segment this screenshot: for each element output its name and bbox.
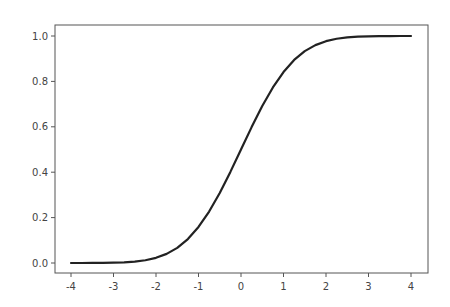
x-tick-label: 2 xyxy=(323,281,329,292)
x-tick-label: 3 xyxy=(365,281,371,292)
x-tick-label: -1 xyxy=(194,281,204,292)
x-tick-label: 4 xyxy=(408,281,414,292)
y-tick-label: 1.0 xyxy=(32,31,48,42)
y-tick-label: 0.4 xyxy=(32,167,48,178)
y-tick-label: 0.0 xyxy=(32,258,48,269)
x-tick-label: 0 xyxy=(238,281,244,292)
y-axis: 0.00.20.40.60.81.0 xyxy=(32,31,55,269)
x-tick-label: -4 xyxy=(66,281,76,292)
y-tick-label: 0.2 xyxy=(32,212,48,223)
line-chart: -4-3-2-101234 0.00.20.40.60.81.0 xyxy=(0,0,450,307)
y-tick-label: 0.6 xyxy=(32,121,48,132)
x-axis: -4-3-2-101234 xyxy=(66,273,414,292)
x-tick-label: 1 xyxy=(280,281,286,292)
x-tick-label: -3 xyxy=(109,281,119,292)
y-tick-label: 0.8 xyxy=(32,76,48,87)
x-tick-label: -2 xyxy=(151,281,161,292)
